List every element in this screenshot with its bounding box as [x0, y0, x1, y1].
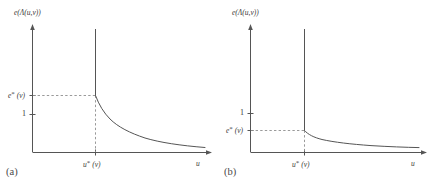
- x-tick-label-ustar: u* (v): [83, 160, 101, 168]
- decay-curve: [96, 96, 206, 148]
- x-axis-arrowhead: [206, 150, 212, 155]
- y-tick-label-one: 1: [240, 109, 244, 117]
- decay-curve: [305, 131, 420, 148]
- x-axis-label: u: [196, 160, 200, 168]
- panel-b-plot: [219, 0, 437, 187]
- y-axis-label: e(Λ(u,v)): [14, 9, 41, 17]
- y-tick-label-estar: e* (v): [226, 126, 243, 134]
- y-axis-arrowhead: [248, 24, 253, 30]
- panel-caption-a: (a): [6, 167, 18, 178]
- figure-container: e(Λ(u,v)) e* (v) 1 u* (v) u (a): [0, 0, 437, 187]
- x-axis-arrowhead: [421, 150, 427, 155]
- panel-caption-b: (b): [224, 167, 236, 178]
- y-axis-label: e(Λ(u,v)): [232, 9, 259, 17]
- y-axis-arrowhead: [30, 24, 35, 30]
- x-tick-label-ustar: u* (v): [292, 160, 310, 168]
- y-tick-label-estar: e* (v): [8, 91, 25, 99]
- y-tick-label-one: 1: [22, 110, 26, 118]
- chart-panel-a: e(Λ(u,v)) e* (v) 1 u* (v) u (a): [0, 0, 218, 187]
- x-axis-label: u: [411, 160, 415, 168]
- chart-panel-b: e(Λ(u,v)) 1 e* (v) u* (v) u (b): [219, 0, 437, 187]
- panel-a-plot: [0, 0, 218, 187]
